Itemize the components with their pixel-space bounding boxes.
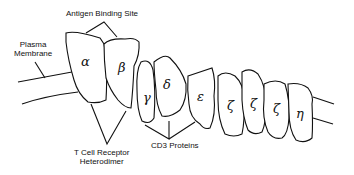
epsilon-symbol: ε — [197, 89, 204, 104]
gamma-symbol: γ — [143, 90, 151, 105]
zeta-1-symbol: ζ — [227, 98, 234, 113]
plasma-membrane-line2: Membrane — [14, 49, 52, 58]
alpha-symbol: α — [81, 54, 90, 69]
plasma-membrane-label: Plasma Membrane — [14, 40, 52, 58]
tcr-line1: T Cell Receptor — [74, 148, 129, 157]
cd3-leader — [145, 121, 195, 139]
eta-symbol: η — [296, 106, 304, 121]
membrane-leader — [35, 62, 45, 78]
tcr-line2: Heterodimer — [74, 157, 129, 166]
tcr-leader — [91, 104, 126, 144]
cd3-proteins-label: CD3 Proteins — [151, 141, 199, 150]
delta-symbol: δ — [163, 77, 171, 92]
zeta-2-symbol: ζ — [250, 96, 257, 111]
membrane-inner-line — [22, 92, 78, 104]
membrane-right-inner — [313, 118, 333, 124]
zeta-3-symbol: ζ — [273, 101, 280, 116]
tcr-heterodimer-label: T Cell Receptor Heterodimer — [74, 148, 129, 166]
membrane-right-outer — [313, 97, 334, 104]
antigen-binding-site-label: Antigen Binding Site — [66, 9, 138, 18]
plasma-membrane-line1: Plasma — [14, 40, 52, 49]
beta-symbol: β — [118, 60, 126, 75]
